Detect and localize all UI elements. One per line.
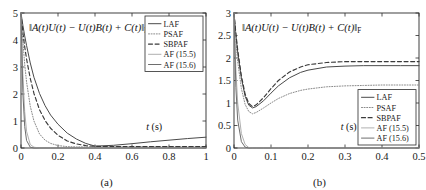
y-tick-label: 2.5 xyxy=(218,30,231,41)
x-tick-label: 0.3 xyxy=(338,151,351,162)
y-tick-label: 0 xyxy=(226,143,231,154)
legend-label-sbpaf: SBPAF xyxy=(164,40,189,49)
x-tick-label: 0.1 xyxy=(264,151,277,162)
x-axis-label: t (s) xyxy=(341,121,357,133)
x-axis-label-var: t xyxy=(341,121,344,132)
chart-svg-a: 00.20.40.60.81012345‖A(t)U(t) − U(t)B(t)… xyxy=(0,0,213,190)
legend-label-psaf: PSAF xyxy=(164,30,184,39)
x-tick-label: 0.2 xyxy=(51,151,64,162)
x-tick-label: 1 xyxy=(203,151,208,162)
y-tick-label: 1 xyxy=(226,98,231,109)
legend-label-af-15-6: AF (15.6) xyxy=(377,134,410,143)
plot-title-subscript: F xyxy=(357,27,361,35)
legend-label-af-15-5: AF (15.5) xyxy=(377,124,410,133)
legend-label-laf: LAF xyxy=(164,20,180,29)
chart-svg-b: 00.10.20.30.40.500.511.522.53‖A(t)U(t) −… xyxy=(213,0,426,190)
x-tick-label: 0.2 xyxy=(301,151,314,162)
y-tick-label: 0 xyxy=(13,143,18,154)
y-tick-label: 3 xyxy=(226,8,231,19)
y-tick-label: 1 xyxy=(13,116,18,127)
legend-label-psaf: PSAF xyxy=(377,104,397,113)
x-tick-label: 0 xyxy=(18,151,23,162)
x-tick-label: 0 xyxy=(231,151,236,162)
x-axis-label-var: t xyxy=(146,121,149,132)
panel-b: 00.10.20.30.40.500.511.522.53‖A(t)U(t) −… xyxy=(213,0,426,190)
y-tick-label: 2 xyxy=(226,53,231,64)
plot-a: 00.20.40.60.81012345‖A(t)U(t) − U(t)B(t)… xyxy=(0,0,213,190)
x-tick-label: 0.5 xyxy=(412,151,425,162)
legend-label-af-15-6: AF (15.6) xyxy=(164,61,197,70)
y-tick-label: 5 xyxy=(13,8,18,19)
plot-b: 00.10.20.30.40.500.511.522.53‖A(t)U(t) −… xyxy=(213,0,426,190)
legend[interactable]: LAFPSAFSBPAFAF (15.5)AF (15.6) xyxy=(145,16,203,71)
legend-label-sbpaf: SBPAF xyxy=(377,114,402,123)
figure-two-panel-line-charts: 00.20.40.60.81012345‖A(t)U(t) − U(t)B(t)… xyxy=(0,0,426,190)
panel-a-caption: (a) xyxy=(0,176,213,188)
x-tick-label: 0.8 xyxy=(162,151,175,162)
legend-label-laf: LAF xyxy=(377,93,393,102)
y-tick-label: 2 xyxy=(13,89,18,100)
y-tick-label: 1.5 xyxy=(218,75,231,86)
x-tick-label: 0.4 xyxy=(88,151,102,162)
x-axis-label: t (s) xyxy=(146,121,162,133)
x-tick-label: 0.4 xyxy=(375,151,389,162)
panel-a: 00.20.40.60.81012345‖A(t)U(t) − U(t)B(t)… xyxy=(0,0,213,190)
x-tick-label: 0.6 xyxy=(125,151,138,162)
y-tick-label: 0.5 xyxy=(218,120,231,131)
legend-label-af-15-5: AF (15.5) xyxy=(164,50,197,59)
legend[interactable]: LAFPSAFSBPAFAF (15.5)AF (15.6) xyxy=(358,90,416,145)
panel-b-caption: (b) xyxy=(213,176,426,188)
y-tick-label: 3 xyxy=(13,62,18,73)
y-tick-label: 4 xyxy=(13,35,19,46)
